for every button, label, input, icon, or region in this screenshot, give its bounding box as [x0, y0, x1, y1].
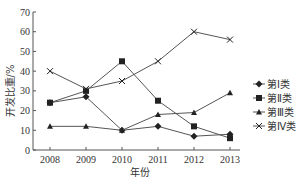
- diamond-marker: [191, 133, 198, 140]
- square-marker: [191, 123, 197, 129]
- y-tick-label: 20: [20, 105, 30, 116]
- diamond-marker: [155, 123, 162, 130]
- x-tick-label: 2008: [40, 154, 60, 165]
- legend-label: 第Ⅱ类: [267, 92, 292, 104]
- square-marker: [47, 100, 53, 106]
- y-tick-label: 60: [20, 26, 30, 37]
- legend-label: 第Ⅳ类: [267, 120, 296, 132]
- diamond-marker: [256, 81, 263, 88]
- square-marker: [227, 135, 233, 141]
- y-tick-label: 40: [20, 66, 30, 77]
- y-tick-label: 70: [20, 7, 30, 18]
- legend-item: 第Ⅳ类: [253, 120, 296, 132]
- series-line: [47, 90, 233, 133]
- x-tick-label: 2013: [220, 154, 240, 165]
- x-tick-label: 2010: [112, 154, 132, 165]
- x-tick-label: 2009: [76, 154, 96, 165]
- legend-label: 第Ⅲ类: [267, 106, 294, 118]
- x-axis-title: 年份: [130, 166, 150, 178]
- series-line: [47, 93, 234, 139]
- legend: 第Ⅰ类第Ⅱ类第Ⅲ类第Ⅳ类: [253, 78, 296, 132]
- axes: 010203040506070200820092010201120122013: [20, 7, 240, 166]
- legend-item: 第Ⅲ类: [253, 106, 294, 118]
- legend-label: 第Ⅰ类: [267, 78, 290, 90]
- square-marker: [155, 98, 161, 104]
- line-chart: 010203040506070200820092010201120122013 …: [0, 0, 304, 181]
- square-marker: [119, 58, 125, 64]
- legend-item: 第Ⅱ类: [253, 92, 292, 104]
- series-line: [47, 29, 233, 92]
- x-tick-label: 2011: [148, 154, 168, 165]
- x-marker: [155, 58, 161, 64]
- series-group: [47, 29, 234, 141]
- y-tick-label: 30: [20, 85, 30, 96]
- y-axis-title: 开发比重/%: [4, 65, 16, 118]
- square-marker: [256, 95, 262, 101]
- x-marker: [47, 68, 53, 74]
- y-tick-label: 10: [20, 125, 30, 136]
- legend-item: 第Ⅰ类: [253, 78, 290, 90]
- y-tick-label: 0: [25, 145, 30, 156]
- triangle-marker: [227, 90, 233, 96]
- y-tick-label: 50: [20, 46, 30, 57]
- x-tick-label: 2012: [184, 154, 204, 165]
